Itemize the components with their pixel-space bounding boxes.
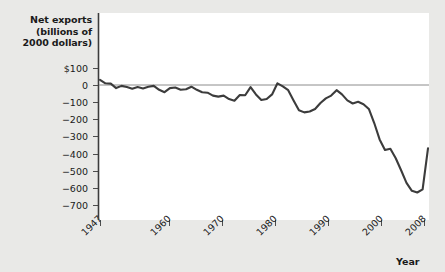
chart-canvas — [0, 0, 445, 272]
net-exports-chart-figure: Net exports (billions of 2000 dollars) $… — [0, 0, 445, 272]
net-exports-data-line — [100, 80, 428, 193]
